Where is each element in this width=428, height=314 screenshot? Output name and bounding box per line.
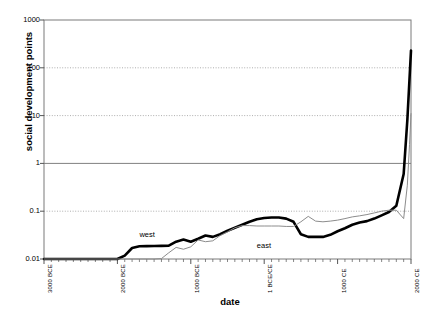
series-line-west <box>44 51 411 259</box>
series-line-east <box>44 114 411 259</box>
chart-container: social development points date 100010010… <box>0 0 428 314</box>
plot-area <box>0 0 428 314</box>
